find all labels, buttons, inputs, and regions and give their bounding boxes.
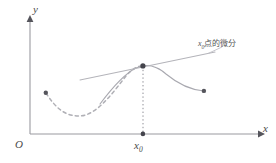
function-curve-solid: [100, 66, 204, 104]
right-endpoint-marker: [202, 89, 206, 93]
tangent-line: [80, 52, 215, 80]
differential-figure: y x O x0 x0点的微分: [0, 0, 276, 163]
left-endpoint-marker: [44, 91, 48, 95]
x0-axis-marker: [141, 132, 146, 137]
tangent-point-marker: [140, 63, 145, 68]
x0-tick-label: x0: [134, 140, 143, 154]
origin-label: O: [15, 139, 23, 150]
x-axis-label: x: [263, 123, 268, 134]
y-axis-label: y: [33, 4, 38, 15]
x0-tick-label-subscript: 0: [139, 145, 143, 154]
y-axis-arrow-icon: [27, 15, 34, 22]
tangent-label-text: 点的微分: [204, 39, 236, 48]
tangent-annotation-label: x0点的微分: [198, 40, 236, 50]
